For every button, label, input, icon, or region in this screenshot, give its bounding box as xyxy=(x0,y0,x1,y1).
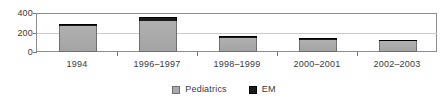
x-tick-mark-3 xyxy=(277,52,278,56)
bars-layer xyxy=(37,13,437,52)
bar-group-2002-2003[interactable] xyxy=(379,40,417,52)
y-tick-label-0: 0 xyxy=(0,48,33,57)
bar-group-1998-1999[interactable] xyxy=(219,36,257,52)
bar-segment-pediatrics-1996-1997 xyxy=(139,21,177,52)
x-tick-label-1996-1997: 1996–1997 xyxy=(117,59,197,70)
x-tick-label-1998-1999: 1998–1999 xyxy=(197,59,277,70)
legend-entry-em[interactable]: EM xyxy=(249,85,276,94)
x-tick-label-2002-2003: 2002–2003 xyxy=(357,59,437,70)
y-tick-label-200: 200 xyxy=(0,29,33,38)
bar-segment-pediatrics-1994 xyxy=(59,26,97,52)
x-tick-label-1994: 1994 xyxy=(37,59,117,70)
x-tick-mark-2 xyxy=(197,52,198,56)
x-tick-mark-1 xyxy=(117,52,118,56)
bar-segment-pediatrics-2002-2003 xyxy=(379,41,417,52)
chart-legend: Pediatrics EM xyxy=(0,85,448,94)
bar-segment-pediatrics-2000-2001 xyxy=(299,40,337,52)
x-axis: 1994 1996–1997 1998–1999 2000–2001 2002–… xyxy=(37,59,437,73)
bar-group-1994[interactable] xyxy=(59,24,97,52)
bar-chart: 400 200 0 xyxy=(0,0,448,104)
x-tick-mark-4 xyxy=(357,52,358,56)
bar-segment-pediatrics-1998-1999 xyxy=(219,38,257,52)
bar-group-2000-2001[interactable] xyxy=(299,38,337,52)
legend-swatch-em-icon xyxy=(249,86,257,94)
legend-entry-pediatrics[interactable]: Pediatrics xyxy=(172,85,227,94)
x-tick-label-2000-2001: 2000–2001 xyxy=(277,59,357,70)
bar-group-1996-1997[interactable] xyxy=(139,17,177,52)
y-tick-mark-0 xyxy=(33,52,37,53)
legend-swatch-pediatrics-icon xyxy=(172,86,180,94)
legend-label-pediatrics: Pediatrics xyxy=(185,85,227,94)
y-axis: 400 200 0 xyxy=(0,0,33,60)
legend-label-em: EM xyxy=(262,85,276,94)
y-tick-label-400: 400 xyxy=(0,9,33,18)
